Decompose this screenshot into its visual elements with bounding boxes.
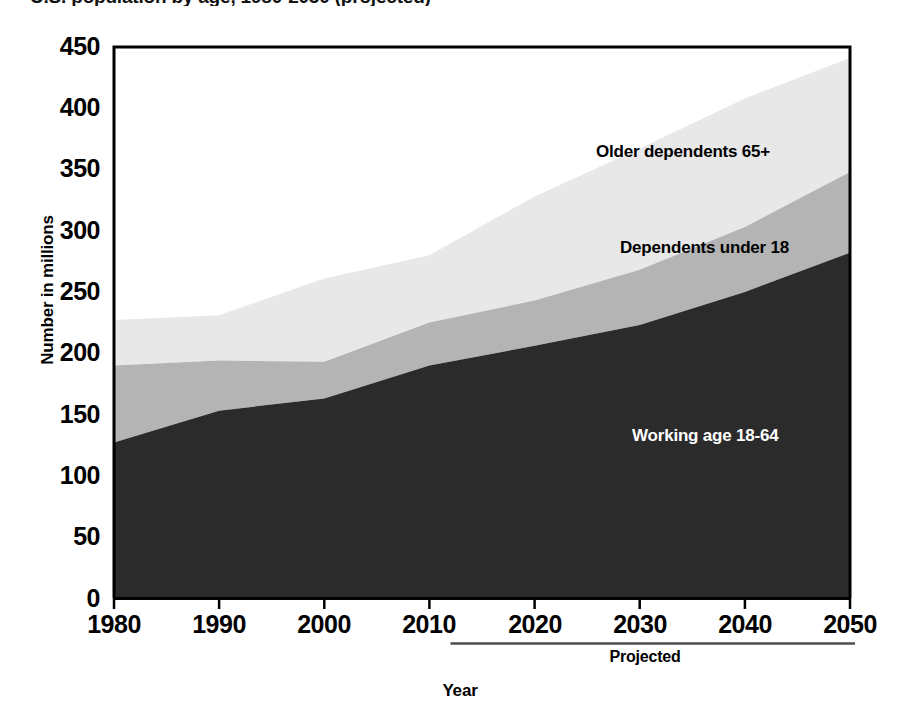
series-label-working-age: Working age 18-64 [632,426,779,446]
y-tick-400: 400 [10,95,100,120]
y-tick-0: 0 [10,586,100,611]
y-tick-50: 50 [10,524,100,549]
projected-label: Projected [580,648,710,666]
chart-title: U.S. population by age, 1980-2050 (proje… [30,0,450,6]
y-tick-450: 450 [10,34,100,59]
stacked-area-chart-figure: U.S. population by age, 1980-2050 (proje… [0,0,899,723]
x-tick-2010: 2010 [374,612,484,637]
x-axis-title: Year [400,681,520,701]
y-tick-350: 350 [10,156,100,181]
y-tick-150: 150 [10,402,100,427]
y-tick-100: 100 [10,463,100,488]
x-tick-2040: 2040 [690,612,800,637]
series-label-older-dependents: Older dependents 65+ [596,142,770,162]
x-tick-1980: 1980 [59,612,169,637]
y-axis-title: Number in millions [38,180,58,400]
x-tick-2000: 2000 [269,612,379,637]
series-label-dependents-under-18: Dependents under 18 [620,238,789,258]
x-tick-2030: 2030 [585,612,695,637]
x-tick-2050: 2050 [795,612,899,637]
x-tick-1990: 1990 [164,612,274,637]
x-tick-2020: 2020 [480,612,590,637]
